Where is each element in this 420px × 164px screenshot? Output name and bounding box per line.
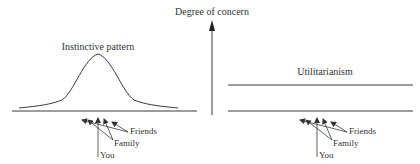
right-label-family: Family xyxy=(333,138,359,148)
axis-arrow-icon xyxy=(209,20,215,31)
left-panel: Instinctive pattern Friends Family You xyxy=(12,41,197,160)
left-label-family: Family xyxy=(114,138,140,148)
right-label-friends: Friends xyxy=(349,126,376,136)
concern-diagram: Degree of concern Instinctive pattern Fr… xyxy=(0,0,420,164)
bell-curve xyxy=(19,54,178,108)
y-axis: Degree of concern xyxy=(175,6,249,115)
left-label-friends: Friends xyxy=(130,126,157,136)
left-panel-title: Instinctive pattern xyxy=(62,41,134,52)
y-axis-label: Degree of concern xyxy=(175,6,249,17)
right-label-you: You xyxy=(319,150,334,160)
left-label-you: You xyxy=(100,150,115,160)
right-panel-title: Utilitarianism xyxy=(297,66,353,77)
right-panel: Utilitarianism Friends Family You xyxy=(228,66,413,160)
